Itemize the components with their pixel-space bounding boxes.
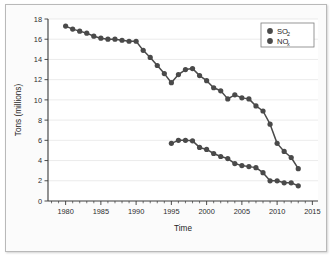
legend-marker-NOx (267, 38, 273, 44)
y-tick-label: 6 (38, 136, 42, 145)
data-point-NOx (260, 170, 265, 175)
data-point-SO2 (77, 29, 82, 34)
y-tick-label: 12 (34, 75, 42, 84)
data-point-SO2 (204, 78, 209, 83)
y-tick-label: 8 (38, 116, 42, 125)
data-point-NOx (211, 151, 216, 156)
y-tick-label: 2 (38, 176, 42, 185)
x-tick-label: 2005 (234, 207, 250, 216)
data-point-NOx (282, 180, 287, 185)
data-point-SO2 (267, 122, 272, 127)
data-point-SO2 (253, 103, 258, 108)
legend-subscript-SO2: 2 (287, 31, 290, 37)
chart-canvas: 024681012141618 198019851990199520002005… (6, 5, 328, 253)
data-point-SO2 (105, 37, 110, 42)
data-point-SO2 (296, 166, 301, 171)
legend-marker-SO2 (267, 28, 273, 34)
data-point-SO2 (239, 95, 244, 100)
x-tick-label: 1990 (128, 207, 144, 216)
y-tick-label: 18 (34, 15, 42, 24)
x-tick-label: 1985 (93, 207, 109, 216)
data-point-SO2 (232, 92, 237, 97)
data-point-SO2 (282, 149, 287, 154)
y-axis-title: Tons (millions) (14, 84, 23, 137)
data-point-SO2 (162, 71, 167, 76)
data-point-SO2 (112, 37, 117, 42)
x-axis-ticks: 19801985199019952000200520102015 (52, 201, 321, 216)
data-point-SO2 (98, 36, 103, 41)
data-point-SO2 (275, 141, 280, 146)
data-point-SO2 (169, 80, 174, 85)
figure-frame: 024681012141618 198019851990199520002005… (5, 4, 327, 252)
data-point-NOx (289, 180, 294, 185)
data-point-SO2 (176, 72, 181, 77)
data-point-SO2 (148, 55, 153, 60)
data-point-SO2 (289, 155, 294, 160)
data-point-NOx (169, 141, 174, 146)
data-point-SO2 (119, 38, 124, 43)
data-point-NOx (190, 138, 195, 143)
y-tick-label: 4 (38, 156, 42, 165)
data-point-SO2 (190, 66, 195, 71)
data-point-NOx (275, 178, 280, 183)
data-point-SO2 (141, 48, 146, 53)
x-tick-label: 2000 (198, 207, 214, 216)
data-point-SO2 (260, 108, 265, 113)
data-point-NOx (197, 145, 202, 150)
data-point-SO2 (218, 88, 223, 93)
data-point-SO2 (183, 67, 188, 72)
data-point-NOx (246, 164, 251, 169)
data-point-NOx (267, 178, 272, 183)
data-point-NOx (296, 183, 301, 188)
data-point-SO2 (91, 34, 96, 39)
x-tick-label: 1995 (163, 207, 179, 216)
x-tick-label: 2015 (304, 207, 320, 216)
data-point-NOx (225, 156, 230, 161)
y-tick-label: 0 (38, 197, 42, 206)
data-point-SO2 (70, 27, 75, 32)
data-point-NOx (239, 163, 244, 168)
data-point-SO2 (155, 63, 160, 68)
data-point-SO2 (84, 31, 89, 36)
y-tick-label: 14 (34, 55, 42, 64)
data-point-SO2 (134, 39, 139, 44)
x-tick-label: 2010 (269, 207, 285, 216)
data-point-NOx (218, 154, 223, 159)
data-point-SO2 (126, 39, 131, 44)
y-tick-label: 10 (34, 96, 42, 105)
data-point-NOx (183, 138, 188, 143)
y-tick-label: 16 (34, 35, 42, 44)
x-axis-title: Time (174, 224, 192, 233)
legend-subscript-NOx: x (287, 41, 290, 47)
chart-legend: SO2NOx (261, 23, 314, 47)
data-point-NOx (204, 147, 209, 152)
x-tick-label: 1980 (57, 207, 73, 216)
data-point-NOx (253, 165, 258, 170)
data-point-SO2 (246, 96, 251, 101)
data-point-SO2 (197, 73, 202, 78)
y-axis-ticks: 024681012141618 (34, 15, 48, 206)
data-point-SO2 (225, 96, 230, 101)
data-point-NOx (176, 138, 181, 143)
data-point-NOx (232, 161, 237, 166)
data-point-SO2 (63, 23, 68, 28)
data-point-SO2 (211, 85, 216, 90)
emissions-line-chart: 024681012141618 198019851990199520002005… (6, 5, 328, 253)
